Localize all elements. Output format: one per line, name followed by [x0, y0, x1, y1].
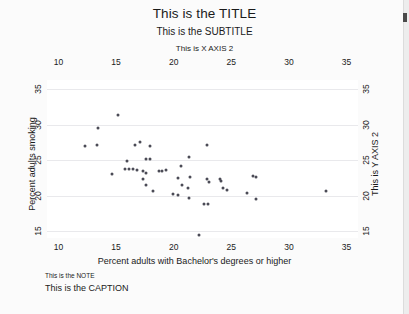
- graph-canvas: This is the TITLE This is the SUBTITLE T…: [0, 0, 409, 314]
- plot-area: [47, 80, 358, 238]
- x-bottom-tick-15: 15: [111, 242, 120, 252]
- x-top-tick-10: 10: [54, 57, 63, 67]
- data-point: [246, 191, 249, 194]
- x-bottom-tick-10: 10: [54, 242, 63, 252]
- edge-marker-icon: [403, 13, 407, 22]
- x-top-tick-20: 20: [169, 57, 178, 67]
- data-point: [148, 144, 151, 147]
- data-point: [254, 198, 257, 201]
- x-bottom-tick-25: 25: [227, 242, 236, 252]
- gridline-y-35: [47, 89, 358, 90]
- x-bottom-tick-30: 30: [284, 242, 293, 252]
- data-point: [219, 179, 222, 182]
- data-point: [187, 156, 190, 159]
- data-point: [139, 141, 142, 144]
- y-axis-title: Percent adults smoking: [27, 89, 37, 239]
- chart-subtitle: This is the SUBTITLE: [0, 26, 409, 37]
- chart-caption: This is the CAPTION: [45, 283, 129, 293]
- data-point: [207, 203, 210, 206]
- gridline-y-30: [47, 125, 358, 126]
- x-axis-title: Percent adults with Bachelor's degrees o…: [0, 256, 389, 266]
- data-point: [133, 144, 136, 147]
- data-point: [208, 181, 211, 184]
- data-point: [198, 234, 201, 237]
- data-point: [179, 164, 182, 167]
- data-point: [202, 203, 205, 206]
- data-point: [177, 176, 180, 179]
- page-edge-strip: [403, 0, 409, 314]
- data-point: [152, 190, 155, 193]
- data-point: [84, 144, 87, 147]
- chart-title: This is the TITLE: [0, 6, 409, 21]
- data-point: [186, 187, 189, 190]
- x-bottom-tick-35: 35: [342, 242, 351, 252]
- data-point: [177, 193, 180, 196]
- data-point: [95, 144, 98, 147]
- data-point: [180, 183, 183, 186]
- data-point: [225, 188, 228, 191]
- data-point: [148, 158, 151, 161]
- data-point: [206, 144, 209, 147]
- x-top-tick-35: 35: [342, 57, 351, 67]
- gridline-y-25: [47, 160, 358, 161]
- data-point: [127, 168, 130, 171]
- data-point: [96, 126, 99, 129]
- y-axis-2-title: This is Y AXIS 2: [370, 89, 380, 239]
- data-point: [135, 169, 138, 172]
- gridline-y-15: [47, 231, 358, 232]
- data-point: [141, 177, 144, 180]
- data-point: [324, 189, 327, 192]
- data-point: [171, 193, 174, 196]
- x-top-tick-15: 15: [111, 57, 120, 67]
- data-point: [145, 171, 148, 174]
- gridline-y-20: [47, 196, 358, 197]
- data-point: [254, 176, 257, 179]
- data-point: [117, 113, 120, 116]
- x-axis-2-title: This is X AXIS 2: [0, 44, 409, 53]
- data-point: [187, 197, 190, 200]
- data-point: [164, 169, 167, 172]
- data-point: [145, 183, 148, 186]
- x-bottom-tick-20: 20: [169, 242, 178, 252]
- data-point: [110, 173, 113, 176]
- x-top-tick-25: 25: [227, 57, 236, 67]
- data-point: [125, 159, 128, 162]
- data-point: [188, 176, 191, 179]
- chart-note: This is the NOTE: [45, 272, 94, 279]
- x-top-tick-30: 30: [284, 57, 293, 67]
